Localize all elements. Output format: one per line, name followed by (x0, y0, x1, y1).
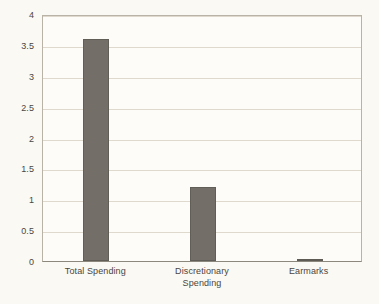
x-axis: Total SpendingDiscretionary SpendingEarm… (42, 265, 362, 303)
bar-chart-figure: 00.511.522.533.54 Total SpendingDiscreti… (0, 0, 379, 304)
y-tick-label: 2.5 (21, 103, 34, 113)
y-tick-label: 3 (29, 72, 34, 82)
plot-area (42, 15, 362, 262)
y-tick-label: 1 (29, 195, 34, 205)
x-tick-label: Total Spending (65, 265, 126, 277)
y-tick-label: 0.5 (21, 226, 34, 236)
x-tick-label: Earmarks (289, 265, 328, 277)
bar (297, 259, 323, 261)
x-tick-label: Discretionary Spending (175, 265, 229, 289)
bar (190, 187, 216, 261)
y-tick-label: 1.5 (21, 164, 34, 174)
y-tick-label: 3.5 (21, 41, 34, 51)
y-tick-label: 0 (29, 257, 34, 267)
y-axis: 00.511.522.533.54 (0, 0, 38, 304)
y-tick-label: 4 (29, 10, 34, 20)
y-tick-label: 2 (29, 134, 34, 144)
bar (83, 39, 109, 261)
bars-layer (43, 16, 361, 261)
